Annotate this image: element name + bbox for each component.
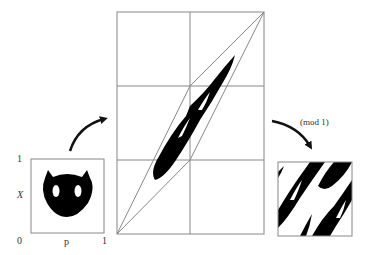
right-panel bbox=[278, 162, 352, 236]
tick-y-max: 1 bbox=[17, 154, 22, 164]
cat-face-icon bbox=[43, 170, 93, 217]
stretched-cat-shape bbox=[153, 55, 235, 180]
left-panel bbox=[31, 159, 104, 233]
tick-x-max: 1 bbox=[102, 236, 107, 246]
axis-x-label: p bbox=[64, 237, 69, 247]
axis-y-label: X bbox=[17, 190, 23, 200]
wrapped-cat-shape bbox=[278, 162, 352, 236]
diagram-canvas bbox=[0, 0, 370, 255]
tick-origin: 0 bbox=[17, 236, 22, 246]
mod-annotation: (mod 1) bbox=[300, 118, 329, 127]
arrow-transform-icon bbox=[70, 119, 104, 151]
middle-panel bbox=[117, 12, 264, 234]
